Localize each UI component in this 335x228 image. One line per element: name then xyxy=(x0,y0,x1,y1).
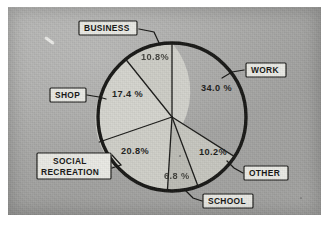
callout-social-recreation[interactable]: SOCIAL RECREATION xyxy=(37,153,111,179)
callout-shop-label: SHOP xyxy=(55,90,80,100)
callout-business-label: BUSINESS xyxy=(84,23,130,33)
callout-school[interactable]: SCHOOL xyxy=(203,194,253,208)
callout-social-recreation-label-line2: RECREATION xyxy=(41,167,99,177)
leader-school xyxy=(185,190,202,201)
callout-school-label: SCHOOL xyxy=(208,196,246,206)
pct-label-social-recreation: 20.8% xyxy=(121,146,149,156)
pct-label-shop: 17.4 % xyxy=(112,89,143,99)
pct-label-school: 6.8 % xyxy=(164,171,190,181)
callout-other[interactable]: OTHER xyxy=(244,166,288,180)
pie-chart-figure: 34.0 % 10.2% 6.8 % 20.8% 17.4 % 10.8% xyxy=(8,7,321,215)
leader-business xyxy=(139,29,160,45)
dust-speck-artifact xyxy=(300,197,302,199)
leader-other xyxy=(227,161,243,173)
photograph: 34.0 % 10.2% 6.8 % 20.8% 17.4 % 10.8% xyxy=(8,7,321,215)
pct-label-business: 10.8% xyxy=(141,52,169,62)
callout-shop[interactable]: SHOP xyxy=(50,88,86,102)
callout-work[interactable]: WORK xyxy=(246,63,286,77)
pie-slices xyxy=(95,43,234,191)
callout-business[interactable]: BUSINESS xyxy=(79,21,137,35)
callout-work-label: WORK xyxy=(251,65,279,75)
scanned-photo-page: 34.0 % 10.2% 6.8 % 20.8% 17.4 % 10.8% xyxy=(0,0,335,228)
dust-speck-artifact xyxy=(179,155,181,157)
callout-other-label: OTHER xyxy=(249,168,280,178)
pct-label-work: 34.0 % xyxy=(201,83,232,93)
pct-label-other: 10.2% xyxy=(199,147,227,157)
callout-social-recreation-label-line1: SOCIAL xyxy=(53,156,87,166)
